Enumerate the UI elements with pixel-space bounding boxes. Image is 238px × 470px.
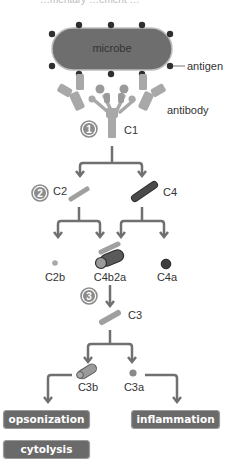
arrows-c3-split xyxy=(84,330,136,362)
cytolysis-label: cytolysis xyxy=(21,443,73,455)
antigen-dot xyxy=(167,31,173,37)
inflammation-label: inflammation xyxy=(136,413,214,425)
antigen-dot xyxy=(76,22,82,28)
antigen-dot xyxy=(108,71,114,77)
antibodies xyxy=(56,74,166,138)
arrows-c2-c4-split xyxy=(54,207,168,237)
c2-molecule xyxy=(71,189,87,199)
svg-text:2: 2 xyxy=(37,188,43,199)
opsonization-box: opsonization xyxy=(4,411,90,429)
cytolysis-box: cytolysis xyxy=(4,441,90,459)
step-3-badge: 3 xyxy=(81,288,97,304)
step-1-badge: 1 xyxy=(81,121,97,137)
c4a-molecule xyxy=(161,259,171,269)
svg-text:3: 3 xyxy=(86,291,92,302)
antigen-dot xyxy=(49,31,55,37)
antibody-right xyxy=(138,74,167,111)
c2-label: C2 xyxy=(53,185,67,197)
antigen-dot xyxy=(49,63,55,69)
c2b-label: C2b xyxy=(45,271,65,283)
c3-molecule xyxy=(102,313,118,322)
c4-label: C4 xyxy=(163,186,177,198)
c4b2a-label: C4b2a xyxy=(94,271,127,283)
step-2-badge: 2 xyxy=(32,185,48,201)
c1-label: C1 xyxy=(124,124,138,136)
c3a-molecule xyxy=(129,369,136,376)
svg-text:1: 1 xyxy=(86,124,92,135)
inflammation-box: inflammation xyxy=(132,411,220,429)
antigen-dot xyxy=(167,63,173,69)
c2b-molecule xyxy=(52,260,58,266)
opsonization-label: opsonization xyxy=(9,413,85,425)
arrow-c4b2a-to-c3 xyxy=(106,285,114,306)
antibody-label: antibody xyxy=(167,104,209,116)
antigen-dot xyxy=(108,22,114,28)
microbe: microbe xyxy=(49,22,173,77)
microbe-label: microbe xyxy=(92,42,131,54)
c3b-molecule xyxy=(76,362,98,380)
arrows-c1-split xyxy=(76,146,146,176)
c3a-label: C3a xyxy=(124,381,145,393)
c4b2a-complex xyxy=(96,244,126,269)
antigen-dot xyxy=(139,22,145,28)
c4a-label: C4a xyxy=(157,271,178,283)
antibody-left xyxy=(56,74,85,111)
antigen-label: antigen xyxy=(187,60,223,72)
c3-label: C3 xyxy=(128,309,142,321)
complement-pathway-diagram: microbe antigen antibody xyxy=(0,0,238,470)
c3b-label: C3b xyxy=(78,381,98,393)
arrows-to-outcomes xyxy=(44,375,181,402)
